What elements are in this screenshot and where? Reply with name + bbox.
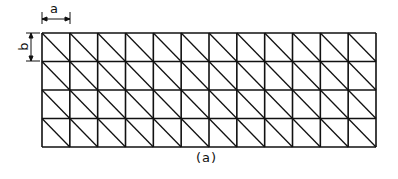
figure-caption: (a)	[196, 151, 217, 164]
dimension-label-a: a	[50, 2, 58, 15]
dimension-label-b: b	[17, 42, 30, 50]
